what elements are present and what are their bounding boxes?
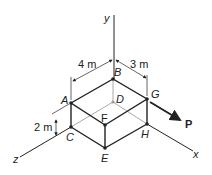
x-axis-label: x xyxy=(192,148,199,160)
force-p-label: P xyxy=(185,118,192,130)
y-axis-label: y xyxy=(103,12,111,24)
box-frame-diagram: y x z A B C D E F G H 4 m 3 m 2 m P xyxy=(0,0,212,175)
joint-points xyxy=(69,77,149,150)
point-d-label: D xyxy=(116,93,124,105)
point-e-label: E xyxy=(101,152,109,164)
z-axis-label: z xyxy=(12,153,19,165)
dimension-2m: 2 m xyxy=(34,121,52,133)
point-f-label: F xyxy=(101,112,108,124)
force-arrow-p xyxy=(150,102,180,120)
hidden-edges xyxy=(71,79,147,127)
dimension-4m: 4 m xyxy=(78,58,96,70)
dimension-3m: 3 m xyxy=(130,58,148,70)
point-c-label: C xyxy=(66,131,74,143)
point-h-label: H xyxy=(141,128,149,140)
point-b-label: B xyxy=(114,66,121,78)
point-g-label: G xyxy=(151,88,160,100)
point-a-label: A xyxy=(60,94,68,106)
box-edges xyxy=(71,79,147,148)
